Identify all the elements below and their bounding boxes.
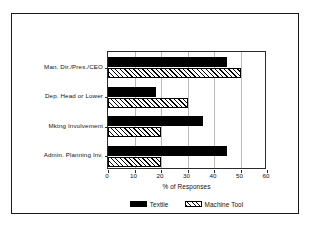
gridline <box>241 52 242 168</box>
bar-textile <box>108 57 227 67</box>
category-tick-mark <box>105 97 108 98</box>
legend-label-textile: Textile <box>150 201 169 208</box>
bar-textile <box>108 116 203 126</box>
x-tick-label: 10 <box>130 172 137 179</box>
x-tick-label: 50 <box>236 172 243 179</box>
category-label: Man. Dir./Pres./CEO <box>44 63 103 70</box>
hatched-swatch-icon <box>185 201 202 207</box>
chart-legend: Textile Machine Tool <box>107 198 266 210</box>
x-tick-label: 0 <box>105 172 108 179</box>
x-tick-label: 30 <box>183 172 190 179</box>
legend-entry-textile: Textile <box>130 201 169 208</box>
category-label: Mktng Involvement <box>49 122 103 129</box>
category-tick-mark <box>105 127 108 128</box>
category-tick-mark <box>105 68 108 69</box>
legend-entry-machine-tool: Machine Tool <box>185 201 244 208</box>
category-axis-labels: Man. Dir./Pres./CEODep. Head or LowerMkt… <box>0 51 103 169</box>
bar-machine-tool <box>108 157 161 167</box>
bar-textile <box>108 87 156 97</box>
chart-figure: Man. Dir./Pres./CEODep. Head or LowerMkt… <box>0 0 312 228</box>
x-tick-label: 40 <box>210 172 217 179</box>
solid-black-swatch-icon <box>130 201 147 207</box>
category-tick-mark <box>105 156 108 157</box>
bar-textile <box>108 146 227 156</box>
category-label: Admin. Planning Inv. <box>44 151 103 158</box>
legend-label-machine-tool: Machine Tool <box>205 201 244 208</box>
bar-machine-tool <box>108 127 161 137</box>
bar-machine-tool <box>108 98 188 108</box>
x-tick-label: 20 <box>157 172 164 179</box>
x-axis-title: % of Responses <box>107 183 266 190</box>
category-label: Dep. Head or Lower <box>45 92 103 99</box>
bar-machine-tool <box>108 68 241 78</box>
x-axis-tick-labels: 0102030405060 <box>0 172 312 182</box>
x-tick-label: 60 <box>263 172 270 179</box>
plot-area <box>107 51 266 169</box>
